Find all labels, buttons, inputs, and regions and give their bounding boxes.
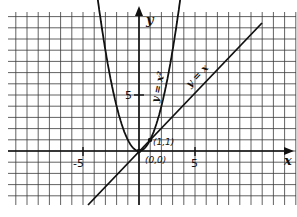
point-origin (137, 149, 141, 153)
point-label-origin: (0,0) (145, 155, 166, 165)
graph-figure: x y -5 5 5 y = x² y = x (1,1) (0,0) (0, 0, 297, 217)
grid (8, 12, 296, 205)
tick-label-x-pos5: 5 (191, 157, 198, 170)
y-axis-arrow-icon (135, 6, 143, 16)
tick-label-x-neg5: -5 (73, 157, 84, 170)
tick-label-y-pos5: 5 (125, 89, 132, 102)
point-label-1-1: (1,1) (153, 137, 174, 147)
y-axis-label: y (145, 12, 155, 27)
point-1-1 (148, 138, 152, 142)
x-axis-label: x (283, 153, 292, 168)
line-label: y = x (183, 61, 211, 90)
